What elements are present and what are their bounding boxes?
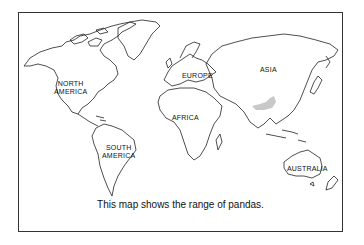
asia-outline: [206, 34, 338, 128]
south-america-outline: [92, 124, 136, 196]
label-south-america: SOUTH AMERICA: [102, 144, 135, 160]
greenland-outline: [118, 20, 160, 60]
north-america-outline: [24, 22, 136, 114]
label-north-america: NORTH AMERICA: [54, 80, 87, 96]
label-australia: AUSTRALIA: [287, 165, 328, 173]
label-south-america-line2: AMERICA: [102, 152, 135, 160]
label-south-america-line1: SOUTH: [102, 144, 135, 152]
kamchatka: [326, 56, 330, 68]
label-europe: EUROPE: [182, 72, 213, 80]
scandinavia: [180, 42, 200, 58]
panda-range-highlight: [252, 96, 276, 110]
british-isles: [166, 58, 172, 68]
indonesia: [266, 130, 306, 142]
africa-outline: [158, 88, 222, 160]
map-caption: This map shows the range of pandas.: [18, 199, 343, 210]
arctic-islands: [70, 28, 108, 46]
central-america-outline: [78, 114, 98, 126]
label-north-america-line2: AMERICA: [54, 88, 87, 96]
japan: [310, 76, 322, 94]
label-asia: ASIA: [260, 66, 277, 74]
tasmania: [310, 182, 314, 186]
caribbean: [96, 116, 106, 121]
madagascar: [216, 134, 222, 150]
australia-outline: [284, 150, 322, 178]
label-north-america-line1: NORTH: [54, 80, 87, 88]
new-zealand: [326, 176, 338, 190]
label-africa: AFRICA: [172, 114, 199, 122]
